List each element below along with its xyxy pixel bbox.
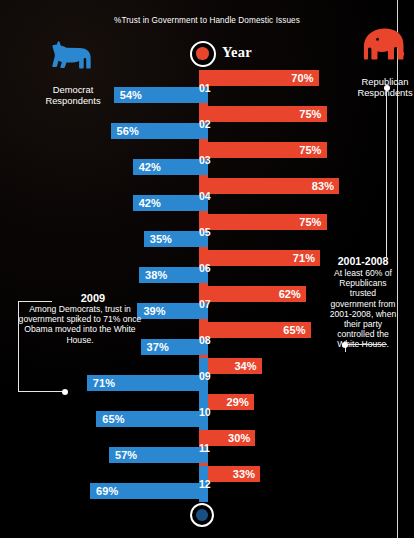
bar-value-republican: 33% [233,468,255,480]
bar-row: 75%56%02 [0,106,414,142]
year-tick-label: 08 [199,334,215,346]
bar-republican: 75% [199,142,327,158]
bar-value-republican: 75% [299,216,321,228]
year-tick-label: 03 [199,154,215,166]
callout-2001-2008-body: At least 60% of Republicans trusted gove… [326,268,400,350]
bar-row: 33%69%12 [0,466,414,502]
bar-republican: 75% [199,106,327,122]
year-tick-label: 10 [199,406,215,418]
bar-value-republican: 70% [291,72,313,84]
bar-value-republican: 62% [279,288,301,300]
bar-democrat: 42% [133,159,208,175]
bar-republican: 71% [199,250,320,266]
year-tick-label: 06 [199,262,215,274]
bar-value-democrat: 42% [139,161,161,173]
bar-value-democrat: 54% [120,89,142,101]
bar-republican: 70% [199,70,319,86]
bar-value-republican: 29% [226,396,248,408]
callout-2009-body: Among Democrats, trust in government spi… [18,304,142,345]
bar-democrat: 42% [133,195,208,211]
bar-row: 29%65%10 [0,394,414,430]
bar-value-republican: 34% [234,360,256,372]
bar-republican: 62% [199,286,306,302]
bar-row: 34%71%09 [0,358,414,394]
bar-value-democrat: 71% [93,377,115,389]
bar-value-democrat: 37% [147,341,169,353]
year-tick-label: 09 [199,370,215,382]
bar-value-democrat: 65% [102,413,124,425]
bar-row: 70%54%01 [0,70,414,106]
bar-value-republican: 71% [293,252,315,264]
year-tick-label: 07 [199,298,215,310]
bar-republican: 83% [199,178,339,194]
year-tick-label: 11 [199,442,215,454]
bar-value-democrat: 57% [115,449,137,461]
bar-republican: 65% [199,322,311,338]
callout-2009-heading: 2009 [18,292,142,304]
bar-democrat: 39% [137,303,208,319]
bar-value-democrat: 69% [96,485,118,497]
year-tick-label: 12 [199,478,215,490]
bar-democrat: 54% [114,87,208,103]
bar-row: 83%42%04 [0,178,414,214]
bar-row: 75%35%05 [0,214,414,250]
bar-democrat: 65% [96,411,208,427]
bar-row: 30%57%11 [0,430,414,466]
bar-value-republican: 75% [299,144,321,156]
bar-value-republican: 75% [299,108,321,120]
bar-value-republican: 83% [312,180,334,192]
year-tick-label: 04 [199,190,215,202]
year-tick-label: 02 [199,118,215,130]
year-tick-label: 05 [199,226,215,238]
bar-row: 75%42%03 [0,142,414,178]
bar-value-democrat: 56% [117,125,139,137]
bar-value-democrat: 39% [143,305,165,317]
year-tick-label: 01 [199,82,215,94]
bar-democrat: 38% [139,267,208,283]
bar-republican: 75% [199,214,327,230]
bar-value-republican: 30% [228,432,250,444]
callout-2001-2008: 2001-2008 At least 60% of Republicans tr… [326,255,400,350]
bar-value-democrat: 38% [145,269,167,281]
bar-democrat: 56% [111,123,208,139]
bar-democrat: 71% [87,375,208,391]
bar-value-democrat: 42% [139,197,161,209]
bar-value-democrat: 35% [150,233,172,245]
callout-2001-2008-heading: 2001-2008 [326,255,400,267]
bar-democrat: 69% [90,483,208,499]
bar-democrat: 57% [109,447,208,463]
bar-value-republican: 65% [283,324,305,336]
callout-2009: 2009 Among Democrats, trust in governmen… [18,292,142,345]
bar-democrat: 37% [141,339,208,355]
